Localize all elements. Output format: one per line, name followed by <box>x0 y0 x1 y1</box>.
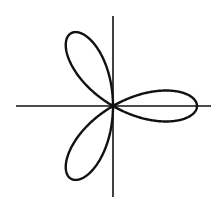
polar-rose-diagram <box>0 0 223 210</box>
